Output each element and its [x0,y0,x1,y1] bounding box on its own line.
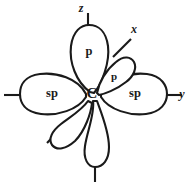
orbital-label-sp-left: sp [46,86,58,100]
orbital-label-p-upright: p [111,70,117,82]
orbital-label-p-up: p [86,44,93,58]
orbital-diagram-canvas: C sp sp p p z x y [0,0,189,184]
axis-line-x-positive [113,39,131,57]
axis-label-x: x [130,22,137,36]
axis-label-z: z [78,1,84,15]
orbital-label-sp-right: sp [129,86,141,100]
axis-label-y: y [177,87,185,101]
orbital-diagram: C sp sp p p z x y [0,0,189,184]
atom-label-carbon: C [87,85,98,101]
